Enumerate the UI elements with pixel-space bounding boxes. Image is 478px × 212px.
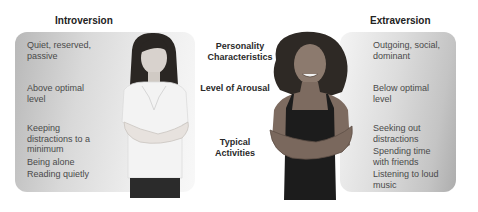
intro-personality: Quiet, reserved, passive bbox=[27, 40, 102, 61]
intro-activity-3: Reading quietly bbox=[27, 169, 107, 180]
extraversion-heading: Extraversion bbox=[370, 15, 431, 26]
label-level-of-arousal: Level of Arousal bbox=[200, 83, 270, 94]
introversion-heading: Introversion bbox=[55, 15, 113, 26]
intro-activity-1: Keeping distractions to a minimum bbox=[27, 123, 107, 155]
introverted-woman-image bbox=[110, 30, 200, 200]
extra-activity-2: Spending time with friends bbox=[373, 146, 448, 167]
extra-activity-3: Listening to loud music bbox=[373, 169, 443, 190]
extraverted-woman-image bbox=[262, 30, 362, 200]
extra-personality: Outgoing, social, dominant bbox=[373, 40, 453, 61]
extra-activity-1: Seeking out distractions bbox=[373, 123, 443, 144]
intro-activity-2: Being alone bbox=[27, 157, 107, 168]
intro-arousal: Above optimal level bbox=[27, 83, 97, 104]
extra-arousal: Below optimal level bbox=[373, 83, 443, 104]
label-typical-activities: Typical Activities bbox=[200, 137, 270, 159]
